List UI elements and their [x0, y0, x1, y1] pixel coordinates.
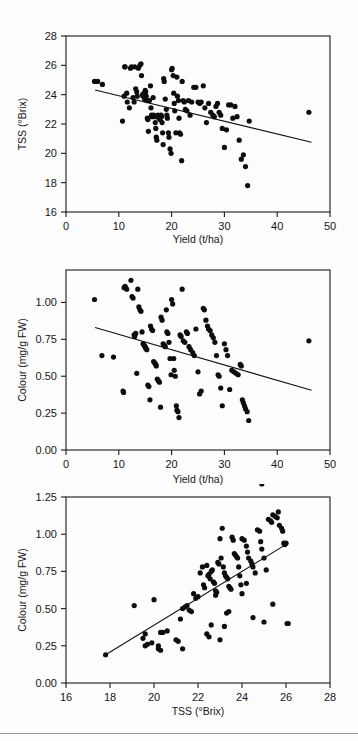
plot-frame — [66, 36, 330, 212]
y-tick-label: 28 — [45, 30, 57, 42]
data-point — [202, 585, 207, 590]
y-axis-title: Colour (mg/g FW) — [16, 548, 28, 631]
data-point — [139, 329, 144, 334]
data-point — [258, 539, 263, 544]
data-point — [241, 152, 246, 157]
data-point — [148, 83, 153, 88]
data-point — [245, 549, 250, 554]
y-tick-label: 1.00 — [36, 296, 57, 308]
data-point — [173, 374, 178, 379]
data-point — [156, 643, 161, 648]
x-tick-label: 30 — [218, 220, 230, 232]
x-axis-title: TSS (°Brix) — [172, 705, 225, 717]
data-point — [209, 622, 214, 627]
data-point — [135, 287, 140, 292]
data-point — [165, 116, 170, 121]
data-point — [250, 564, 255, 569]
data-point — [206, 101, 211, 106]
data-point — [228, 587, 233, 592]
y-tick-label: 1.00 — [36, 528, 57, 540]
y-tick-label: 26 — [45, 59, 57, 71]
data-point — [154, 363, 159, 368]
data-point — [223, 347, 228, 352]
plot-frame — [66, 270, 330, 450]
data-point — [216, 561, 221, 566]
data-point — [170, 66, 175, 71]
data-point — [157, 380, 162, 385]
panel-3-colour-vs-tss: 161820222426280.000.250.500.751.001.25TS… — [0, 484, 358, 734]
data-point — [259, 484, 264, 487]
data-point — [185, 331, 190, 336]
x-tick-label: 26 — [280, 691, 292, 703]
data-point — [245, 409, 250, 414]
data-point — [176, 116, 181, 121]
data-point — [169, 297, 174, 302]
y-tick-label: 1.25 — [36, 491, 57, 503]
data-point — [100, 82, 105, 87]
data-point — [165, 331, 170, 336]
x-tick-label: 28 — [324, 691, 336, 703]
x-tick-label: 24 — [236, 691, 248, 703]
data-point — [164, 107, 169, 112]
data-point — [146, 129, 151, 134]
data-point — [203, 318, 208, 323]
data-point — [148, 105, 153, 110]
data-point — [125, 99, 130, 104]
data-point — [212, 340, 217, 345]
data-point — [235, 555, 240, 560]
x-tick-label: 50 — [324, 458, 336, 470]
data-point — [120, 118, 125, 123]
data-point — [159, 114, 164, 119]
data-point — [225, 353, 230, 358]
data-point — [261, 555, 266, 560]
data-point — [149, 640, 154, 645]
data-point — [193, 326, 198, 331]
data-point — [160, 130, 165, 135]
data-point — [172, 101, 177, 106]
data-point — [167, 146, 172, 151]
data-point — [138, 309, 143, 314]
data-point — [204, 120, 209, 125]
figure-container: 0102030405016182022242628Yield (t/ha)TSS… — [0, 0, 358, 741]
data-point — [124, 287, 129, 292]
data-point — [182, 340, 187, 345]
data-point — [246, 418, 251, 423]
data-point — [245, 183, 250, 188]
data-point — [132, 99, 137, 104]
data-point — [208, 328, 213, 333]
data-point — [200, 564, 205, 569]
data-point — [217, 536, 222, 541]
data-point — [189, 99, 194, 104]
data-point — [231, 538, 236, 543]
data-point — [195, 594, 200, 599]
data-point — [193, 85, 198, 90]
data-point — [214, 353, 219, 358]
data-point — [135, 94, 140, 99]
data-point — [178, 132, 183, 137]
data-point — [243, 164, 248, 169]
data-point — [286, 621, 291, 626]
data-point — [212, 581, 217, 586]
data-point — [163, 96, 168, 101]
y-axis-title: TSS (°Brix) — [16, 98, 28, 151]
data-point — [220, 403, 225, 408]
x-axis-title: Yield (t/ha) — [173, 233, 223, 245]
data-point — [222, 145, 227, 150]
data-point — [270, 602, 275, 607]
data-point — [174, 74, 179, 79]
data-point — [238, 582, 243, 587]
x-tick-label: 20 — [165, 458, 177, 470]
data-point — [221, 564, 226, 569]
data-point — [239, 363, 244, 368]
data-point — [210, 567, 215, 572]
data-point — [162, 79, 167, 84]
y-tick-label: 20 — [45, 147, 57, 159]
data-point — [153, 126, 158, 131]
data-point — [211, 335, 216, 340]
data-point — [220, 526, 225, 531]
data-point — [174, 403, 179, 408]
x-tick-label: 22 — [192, 691, 204, 703]
data-point — [158, 630, 163, 635]
data-point — [180, 79, 185, 84]
data-point — [175, 409, 180, 414]
